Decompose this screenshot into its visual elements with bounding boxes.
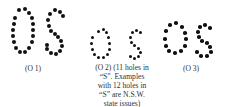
- perforation-hole: [135, 29, 138, 32]
- perforation-hole: [198, 25, 202, 29]
- caption-o2: (O 2) (11 holes in “S”. Examples with 12…: [84, 63, 160, 107]
- perforation-hole: [59, 39, 63, 43]
- perforation-hole: [17, 8, 21, 12]
- perforation-hole: [133, 57, 136, 60]
- perforation-hole: [14, 46, 18, 50]
- perforation-hole: [200, 39, 204, 43]
- caption-o2-line-4: “S” are N.S.W.: [84, 90, 160, 99]
- perforation-hole: [129, 55, 132, 58]
- perforation-hole: [197, 35, 201, 39]
- perforation-hole: [195, 50, 199, 54]
- perforation-hole: [27, 46, 31, 50]
- caption-o3: (O 3): [168, 64, 214, 73]
- perforation-hole: [13, 16, 17, 20]
- perforation-hole: [133, 44, 136, 47]
- perforation-hole: [106, 53, 109, 56]
- perforation-hole: [46, 18, 50, 22]
- perforation-hole: [183, 31, 187, 35]
- perforation-hole: [208, 45, 212, 49]
- perforation-hole: [18, 50, 22, 54]
- perforation-hole: [91, 36, 94, 39]
- perforation-hole: [48, 12, 52, 16]
- perforation-hole: [27, 11, 31, 15]
- perforation-hole: [58, 49, 62, 53]
- perforation-hole: [137, 47, 140, 50]
- perforation-hole: [183, 44, 187, 48]
- perforation-hole: [97, 30, 100, 33]
- perforation-hole: [60, 44, 64, 48]
- perforation-hole: [205, 41, 209, 45]
- perforation-hole: [129, 36, 132, 39]
- perforation-hole: [45, 43, 49, 47]
- caption-o1: (O 1): [10, 64, 56, 73]
- perforation-hole: [11, 34, 15, 38]
- caption-o2-line-1: (O 2) (11 holes in: [84, 63, 160, 72]
- perforation-hole: [102, 28, 105, 31]
- perforation-hole: [23, 50, 27, 54]
- perforation-hole: [23, 7, 27, 11]
- perforation-hole: [203, 23, 207, 27]
- perforation-hole: [131, 31, 134, 34]
- perforation-hole: [139, 31, 142, 34]
- perforation-hole: [208, 26, 212, 30]
- perforation-hole: [184, 37, 188, 41]
- perforation-hole: [47, 24, 51, 28]
- perforation-hole: [173, 51, 177, 55]
- perforation-hole: [11, 28, 15, 32]
- perforation-hole: [54, 52, 58, 56]
- perforation-hole: [130, 41, 133, 44]
- perforation-hole: [12, 40, 16, 44]
- perforation-hole: [102, 56, 105, 59]
- perforation-hole: [199, 54, 203, 58]
- perforation-hole: [108, 48, 111, 51]
- perforation-hole: [93, 53, 96, 56]
- perforation-hole: [53, 8, 57, 12]
- perforation-hole: [180, 25, 184, 29]
- perforation-hole: [164, 29, 168, 33]
- perforation-hole: [49, 51, 53, 55]
- perforation-hole: [30, 16, 34, 20]
- perforation-hole: [61, 14, 65, 18]
- perforation-hole: [196, 30, 200, 34]
- perforation-hole: [205, 54, 209, 58]
- perforation-hole: [90, 42, 93, 45]
- perforation-hole: [12, 22, 16, 26]
- perforation-hole: [209, 50, 213, 54]
- caption-o2-line-3: with 12 holes in: [84, 81, 160, 90]
- caption-o2-line-2: “S”. Examples: [84, 72, 160, 81]
- perforation-hole: [164, 44, 168, 48]
- perforation-hole: [31, 28, 35, 32]
- perforation-hole: [168, 23, 172, 27]
- perforation-hole: [167, 49, 171, 53]
- perforation-hole: [31, 22, 35, 26]
- caption-o2-line-5: state issues): [84, 99, 160, 107]
- perforation-hole: [139, 51, 142, 54]
- perforation-hole: [137, 55, 140, 58]
- perforation-hole: [179, 49, 183, 53]
- perforation-hole: [105, 31, 108, 34]
- perforation-hole: [45, 47, 49, 51]
- perforation-hole: [30, 40, 34, 44]
- perforation-hole: [108, 42, 111, 45]
- perforation-hole: [163, 37, 167, 41]
- perforation-hole: [97, 56, 100, 59]
- perforation-hole: [91, 48, 94, 51]
- perforation-hole: [174, 21, 178, 25]
- perforation-hole: [107, 36, 110, 39]
- perforation-hole: [31, 34, 35, 38]
